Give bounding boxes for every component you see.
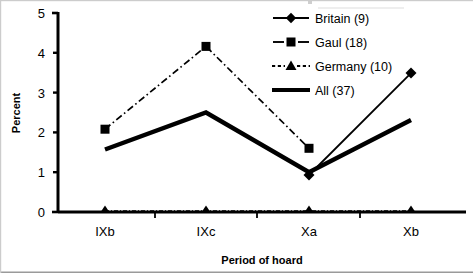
legend-label-all: All (37) xyxy=(315,84,355,98)
x-axis-title: Period of hoard xyxy=(221,254,302,266)
y-tick-label-5: 5 xyxy=(38,6,45,21)
y-tick-label-4: 4 xyxy=(38,46,45,61)
x-tick-label-ixc: IXc xyxy=(197,224,216,239)
page-edge-top xyxy=(0,0,473,1)
y-axis-title: Percent xyxy=(10,92,22,133)
gaul-marker-ixc xyxy=(202,42,211,51)
line-chart: 5 4 3 2 1 0 Percent IXb IXc Xa Xb Period… xyxy=(0,0,473,273)
legend-label-germany: Germany (10) xyxy=(315,60,392,74)
y-tick-label-0: 0 xyxy=(38,205,45,220)
y-tick-label-2: 2 xyxy=(38,125,45,140)
gaul-marker-xa xyxy=(305,144,314,153)
y-tick-label-3: 3 xyxy=(38,86,45,101)
x-tick-label-xa: Xa xyxy=(301,224,318,239)
crop-artifact-line xyxy=(318,7,404,9)
gaul-marker-ixb xyxy=(101,125,110,134)
legend-label-gaul: Gaul (18) xyxy=(315,36,367,50)
y-tick-label-1: 1 xyxy=(38,165,45,180)
legend-marker-square-icon xyxy=(287,38,296,47)
x-tick-label-xb: Xb xyxy=(403,224,419,239)
x-tick-label-ixb: IXb xyxy=(95,224,115,239)
legend-label-britain: Britain (9) xyxy=(315,12,369,26)
page-edge-left xyxy=(0,0,1,273)
chart-background xyxy=(0,0,473,273)
